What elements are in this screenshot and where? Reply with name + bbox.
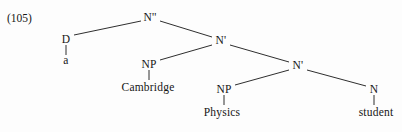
tree-edge-nbar0-to-n [307,70,366,86]
tree-node-np2: NP [216,84,231,96]
tree-node-nbar0: N' [293,60,304,72]
tree-edge-nbar2-to-d [74,21,141,35]
tree-node-np1: NP [141,59,156,71]
tree-node-n: N [370,84,379,96]
tree-node-nbar1: N' [216,35,227,47]
syntax-tree-figure: (105) N''DaN'NPCambridgeN'NPPhysicsNstud… [0,0,402,132]
tree-edge-nbar1-to-np1 [160,45,212,60]
tree-edges-svg [0,0,402,132]
tree-node-student: student [359,107,394,119]
tree-node-cambridge: Cambridge [122,82,175,94]
tree-node-physics: Physics [204,107,241,119]
tree-edge-nbar0-to-np2 [235,70,289,85]
tree-node-nbar2: N'' [143,12,156,24]
tree-node-d: D [62,34,71,46]
tree-node-a: a [63,55,68,67]
tree-edge-nbar1-to-nbar0 [230,45,289,62]
tree-edge-nbar2-to-nbar1 [160,21,212,37]
